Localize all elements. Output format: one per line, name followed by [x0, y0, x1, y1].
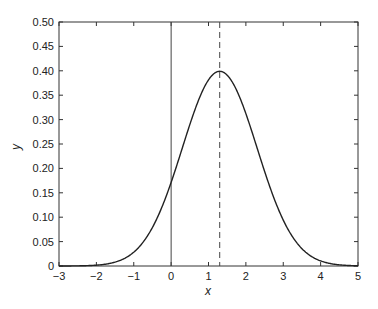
y-tick-label: 0.05: [33, 236, 54, 248]
normal-curve: [59, 71, 358, 266]
chart: −3−2−1012345 00.050.100.150.200.250.300.…: [0, 0, 378, 309]
x-tick-label: 5: [355, 270, 361, 282]
x-axis-ticks: −3−2−1012345: [53, 22, 361, 282]
y-tick-label: 0.40: [33, 65, 54, 77]
y-tick-label: 0.10: [33, 211, 54, 223]
reference-lines: [171, 22, 220, 266]
x-tick-label: 2: [243, 270, 249, 282]
x-axis-label: x: [204, 284, 212, 298]
x-tick-label: 1: [205, 270, 211, 282]
y-tick-label: 0.15: [33, 187, 54, 199]
y-axis-ticks: 00.050.100.150.200.250.300.350.400.450.5…: [33, 16, 358, 272]
axes-box: [59, 22, 358, 266]
x-tick-label: 4: [318, 270, 324, 282]
y-tick-label: 0: [48, 260, 54, 272]
y-tick-label: 0.20: [33, 162, 54, 174]
y-tick-label: 0.35: [33, 89, 54, 101]
x-tick-label: −3: [53, 270, 66, 282]
y-tick-label: 0.30: [33, 114, 54, 126]
y-axis-label: y: [9, 143, 23, 151]
y-tick-label: 0.50: [33, 16, 54, 28]
x-tick-label: 0: [168, 270, 174, 282]
y-tick-label: 0.45: [33, 40, 54, 52]
x-tick-label: 3: [280, 270, 286, 282]
y-tick-label: 0.25: [33, 138, 54, 150]
x-tick-label: −1: [127, 270, 140, 282]
plot-frame: [59, 22, 358, 266]
x-tick-label: −2: [90, 270, 103, 282]
